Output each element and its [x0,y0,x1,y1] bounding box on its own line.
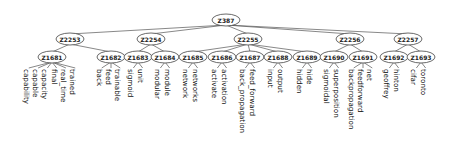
leaf-label-superposition: superposition [332,69,341,118]
node-label: Z2254 [140,36,161,43]
leaf-label-sigmoidal: sigmoidal [322,69,331,104]
node-label: Z1692 [383,54,404,61]
tree-edge [222,44,248,52]
leaf-label-trainable: trainable [113,69,122,102]
node-label: Z1693 [410,54,431,61]
tree-node-z2254[interactable]: Z2254 [137,33,165,45]
leaf-label-capable: capable [31,69,40,98]
leaf-label-input: input [266,69,275,88]
tree-node-z2256[interactable]: Z2256 [336,33,364,45]
leaf-label-cifar: cifar [409,69,418,85]
leaf-label-modular: modular [153,69,162,99]
node-label: Z1684 [154,54,175,61]
tree-edge [70,44,111,52]
node-label: Z1688 [267,54,288,61]
node-label: Z2253 [59,36,80,43]
leaf-label-sigmoid: sigmoid [126,69,135,97]
tree-node-z2253[interactable]: Z2253 [56,33,84,45]
tree-node-z1682[interactable]: Z1682 [97,51,125,63]
leaf-label-back-propagation: back_propagation [238,69,247,133]
node-label: Z1683 [127,54,148,61]
tree-node-z2255[interactable]: Z2255 [234,33,262,45]
leaf-label-output: output [276,69,285,93]
leaf-label-module: module [163,69,172,97]
leaf-label-hidden: hidden [295,69,304,94]
leaf-label-unit: unit [136,69,145,83]
nodes-layer: Z387Z2253Z1681Z1682Z2254Z1683Z1684Z2255Z… [38,14,435,63]
leaf-label-networks: networks [191,69,200,102]
tree-node-z1681[interactable]: Z1681 [38,51,66,63]
leaf-label-real-time: real_time [59,69,68,103]
leaf-label-geoffrey: geoffrey [382,69,391,100]
node-label: Z2255 [237,36,258,43]
leaf-label-trained: trained [68,69,77,95]
tree-edge [70,25,226,34]
leaf-label-capacity: capacity [40,69,49,100]
node-label: Z1686 [211,54,232,61]
tree-node-z1689[interactable]: Z1689 [293,51,321,63]
node-label: Z2256 [339,36,360,43]
leaf-label-net: net [365,69,374,81]
tree-edge [151,25,226,34]
leaf-label-feed-forward: feed_forward [248,69,257,116]
leaf-label-toronto: toronto [419,69,428,95]
tree-node-z1692[interactable]: Z1692 [380,51,408,63]
node-label: Z1690 [323,54,344,61]
leaf-label-final: final [50,69,59,84]
leaf-label-feedforward: feedforward [356,69,365,113]
tree-diagram: Z387Z2253Z1681Z1682Z2254Z1683Z1684Z2255Z… [0,0,450,143]
leaves-layer: capabilitycapablecapacityfinalreal_timet… [22,69,428,133]
node-label: Z1682 [100,54,121,61]
tree-node-z2257[interactable]: Z2257 [394,33,422,45]
node-label: Z387 [218,17,235,24]
tree-node-z1690[interactable]: Z1690 [320,51,348,63]
tree-node-z1687[interactable]: Z1687 [236,51,264,63]
tree-node-z1684[interactable]: Z1684 [151,51,179,63]
node-label: Z1681 [41,54,62,61]
leaf-label-back: back [95,69,104,87]
tree-node-z387[interactable]: Z387 [212,14,240,26]
node-label: Z1691 [352,54,373,61]
tree-node-z1685[interactable]: Z1685 [179,51,207,63]
node-label: Z2257 [397,36,418,43]
tree-node-z1683[interactable]: Z1683 [124,51,152,63]
tree-node-z1691[interactable]: Z1691 [349,51,377,63]
tree-node-z1693[interactable]: Z1693 [407,51,435,63]
leaf-label-backpropagation: backpropagation [347,69,356,130]
leaf-label-hinton: hinton [392,69,401,92]
tree-node-z1686[interactable]: Z1686 [208,51,236,63]
tree-canvas: Z387Z2253Z1681Z1682Z2254Z1683Z1684Z2255Z… [0,0,450,143]
leaf-label-activation: activation [220,69,229,105]
tree-node-z1688[interactable]: Z1688 [264,51,292,63]
node-label: Z1689 [296,54,317,61]
leaf-label-network: network [181,69,190,99]
leaf-label-feed: feed [104,69,113,85]
leaf-label-hide: hide [305,69,314,85]
tree-edge [226,25,408,34]
leaf-label-activate: activate [210,69,219,99]
leaf-label-capability: capability [22,69,31,105]
node-label: Z1687 [239,54,260,61]
node-label: Z1685 [182,54,203,61]
